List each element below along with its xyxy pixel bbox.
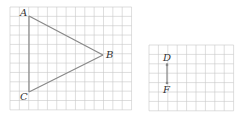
point-label-b: B xyxy=(105,49,113,60)
point-label-c: C xyxy=(20,91,28,102)
segment-df: D F xyxy=(162,52,171,95)
grid-right xyxy=(149,45,234,111)
point-label-a: A xyxy=(19,7,27,18)
point-d-dot xyxy=(166,64,169,67)
point-label-d: D xyxy=(162,52,171,63)
point-label-f: F xyxy=(162,84,171,95)
geometry-figure: A B C D F xyxy=(0,0,242,119)
